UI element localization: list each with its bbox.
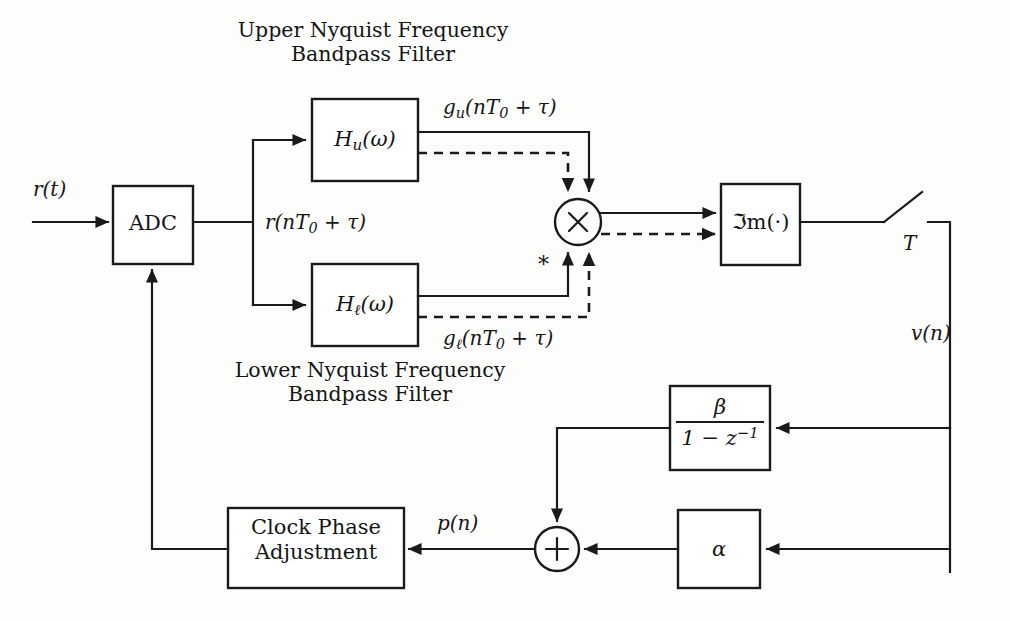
adc-out-tail: + τ) — [318, 210, 366, 234]
label-adc: ADC — [113, 211, 193, 236]
label-timing-error-signal: v(n) — [911, 322, 951, 346]
label-upper-filter: Hu(ω) — [312, 127, 418, 155]
adc-out-sub: 0 — [309, 220, 318, 236]
gl-base: g — [443, 326, 456, 350]
integrator-den-sup: −1 — [737, 424, 759, 441]
caption-upper-filter: Upper Nyquist Frequency Bandpass Filter — [213, 18, 533, 66]
integrator-numerator: β — [676, 396, 763, 421]
gl-tail: + τ) — [505, 326, 553, 350]
gu-arg: (nT — [465, 95, 499, 119]
hl-base: H — [336, 292, 354, 316]
caption-lower-line1: Lower Nyquist Frequency — [205, 358, 535, 382]
clock-phase-line2: Adjustment — [228, 540, 404, 565]
hu-sub: u — [353, 136, 363, 154]
gu-sub: u — [456, 105, 465, 121]
label-lower-filter: Hℓ(ω) — [312, 292, 418, 320]
hl-arg: (ω) — [361, 292, 395, 316]
label-clock-phase-adjustment: Clock Phase Adjustment — [228, 515, 404, 565]
gl-argsub: 0 — [496, 336, 505, 352]
wire-switch-output-bus — [928, 222, 950, 572]
gl-arg: (nT — [462, 326, 496, 350]
wire-clock-phase-to-adc — [152, 270, 228, 549]
label-lower-branch-signal: gℓ(nT0 + τ) — [443, 327, 553, 353]
label-gain-alpha: α — [678, 537, 760, 562]
hu-base: H — [334, 127, 352, 151]
hu-arg: (ω) — [362, 127, 396, 151]
switch-blade — [884, 192, 922, 222]
adc-out-base: r — [265, 210, 275, 234]
wire-integrator-to-summer — [557, 428, 670, 521]
caption-upper-line2: Bandpass Filter — [213, 42, 533, 66]
wire-upper-dashed-to-multiplier — [418, 153, 568, 191]
gu-base: g — [443, 95, 456, 119]
gu-argsub: 0 — [499, 105, 508, 121]
wire-upper-solid-to-multiplier — [418, 132, 589, 191]
integrator-fraction: β 1 − z−1 — [676, 396, 763, 450]
label-conjugate-marker: * — [538, 252, 549, 278]
label-phase-control-signal: p(n) — [437, 512, 478, 536]
label-input-signal: r(t) — [33, 178, 66, 202]
caption-lower-filter: Lower Nyquist Frequency Bandpass Filter — [205, 358, 535, 406]
diagram-canvas — [0, 0, 1010, 621]
block-diagram-figure: Upper Nyquist Frequency Bandpass Filter … — [0, 0, 1010, 621]
integrator-den-pre: 1 − z — [681, 425, 736, 449]
clock-phase-line1: Clock Phase — [228, 515, 404, 540]
adc-out-arg: (nT — [275, 210, 309, 234]
caption-upper-line1: Upper Nyquist Frequency — [213, 18, 533, 42]
label-adc-output-signal: r(nT0 + τ) — [265, 211, 366, 237]
label-integrator: β 1 − z−1 — [670, 396, 770, 450]
integrator-denominator: 1 − z−1 — [676, 421, 763, 450]
gu-tail: + τ) — [508, 95, 556, 119]
label-sample-period: T — [903, 232, 916, 256]
label-upper-branch-signal: gu(nT0 + τ) — [443, 96, 557, 122]
wire-lower-dashed-to-multiplier — [418, 253, 589, 317]
caption-lower-line2: Bandpass Filter — [205, 382, 535, 406]
label-imaginary-part: ℑm(·) — [721, 210, 800, 235]
